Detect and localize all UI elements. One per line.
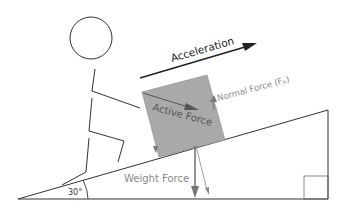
right-angle-marker — [304, 176, 328, 199]
stick-figure-leg-front — [89, 131, 124, 162]
weight-force-label: Weight Force — [124, 173, 189, 184]
stick-figure-head — [70, 17, 112, 59]
weight-force-arrowhead — [191, 186, 199, 198]
stick-figure-body — [92, 69, 140, 108]
stick-figure-torso — [89, 98, 92, 131]
acceleration-arrowhead — [242, 43, 257, 51]
incline-diagram: 30° Acceleration Active Force Normal For… — [0, 0, 339, 212]
stick-figure-leg-back — [62, 138, 89, 185]
normal-force-label: Normal Force (Fn) — [216, 74, 291, 103]
angle-label: 30° — [68, 188, 82, 197]
weight-component-arrow — [196, 146, 207, 190]
weight-component-arrowhead — [205, 187, 209, 195]
angle-arc — [83, 180, 88, 199]
